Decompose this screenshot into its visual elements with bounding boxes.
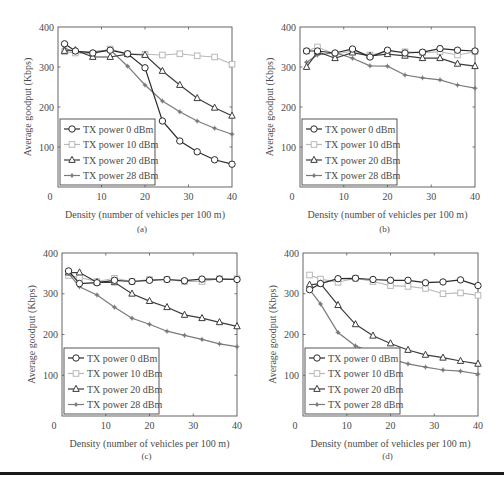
legend-label: TX power 0 dBm: [328, 353, 398, 364]
y-tick-label: 100: [39, 142, 54, 153]
panel-label: (b): [379, 224, 390, 234]
y-tick-label: 300: [43, 288, 58, 299]
triangle-marker: [370, 332, 376, 338]
legend-label: TX power 28 dBm: [87, 399, 162, 410]
circle-marker: [367, 54, 373, 60]
legend-label: TX power 20 dBm: [87, 384, 162, 395]
legend-label: TX power 20 dBm: [325, 155, 400, 166]
circle-marker: [387, 277, 393, 283]
legend: TX power 0 dBmTX power 10 dBmTX power 20…: [64, 348, 162, 414]
panel-label: (a): [137, 224, 147, 234]
square-marker: [160, 52, 166, 58]
y-tick-label: 100: [43, 370, 58, 381]
circle-marker: [76, 280, 82, 286]
x-tick-label: 20: [145, 420, 155, 431]
triangle-marker: [177, 81, 183, 87]
square-marker: [77, 275, 83, 281]
x-tick-label: 0: [52, 420, 57, 431]
chart-figure: 010203040100200300400Density (number of …: [0, 0, 504, 486]
square-marker: [194, 53, 200, 59]
square-marker: [69, 142, 75, 148]
y-tick-label: 400: [284, 248, 299, 259]
square-marker: [440, 291, 446, 297]
square-marker: [177, 51, 183, 57]
legend-label: TX power 28 dBm: [83, 170, 158, 181]
square-marker: [475, 293, 481, 299]
y-tick-label: 300: [281, 62, 296, 73]
square-marker: [458, 290, 464, 296]
y-axis-label: Average goodput (Kbps): [26, 285, 38, 384]
x-axis-label: Density (number of vehicles per 100 m): [70, 438, 230, 450]
circle-marker: [317, 280, 323, 286]
chart-panel-a: 010203040100200300400Density (number of …: [22, 22, 237, 235]
circle-marker: [124, 51, 130, 57]
y-tick-label: 200: [281, 102, 296, 113]
x-tick-label: 0: [290, 191, 295, 202]
y-tick-label: 200: [284, 329, 299, 340]
x-axis-label: Density (number of vehicles per 100 m): [311, 438, 471, 450]
square-marker: [73, 371, 79, 377]
x-tick-label: 20: [386, 420, 396, 431]
circle-marker: [234, 276, 240, 282]
truncated-caption-text: [0, 478, 504, 486]
square-marker: [311, 142, 317, 148]
circle-marker: [129, 278, 135, 284]
x-tick-label: 40: [473, 420, 483, 431]
legend-label: TX power 0 dBm: [87, 353, 157, 364]
circle-marker: [405, 277, 411, 283]
square-marker: [307, 272, 313, 278]
triangle-marker: [194, 95, 200, 101]
chart-panel-c: 010203040100200300400Density (number of …: [26, 248, 242, 462]
circle-marker: [199, 276, 205, 282]
legend-label: TX power 10 dBm: [83, 139, 158, 150]
triangle-marker: [76, 269, 82, 275]
circle-marker: [73, 355, 79, 361]
legend-label: TX power 0 dBm: [83, 124, 153, 135]
circle-marker: [303, 48, 309, 54]
square-marker: [423, 286, 429, 292]
circle-marker: [146, 277, 152, 283]
circle-marker: [370, 276, 376, 282]
triangle-marker: [129, 290, 135, 296]
circle-marker: [335, 275, 341, 281]
legend-label: TX power 10 dBm: [328, 368, 403, 379]
series-tx-power-20-dbm: [61, 47, 235, 119]
circle-marker: [437, 45, 443, 51]
x-tick-label: 30: [188, 420, 198, 431]
legend-label: TX power 28 dBm: [328, 399, 403, 410]
circle-marker: [94, 280, 100, 286]
circle-marker: [457, 277, 463, 283]
legend: TX power 0 dBmTX power 10 dBmTX power 20…: [60, 119, 158, 185]
panel-label: (d): [382, 451, 393, 461]
legend-label: TX power 10 dBm: [325, 139, 400, 150]
x-tick-label: 10: [339, 191, 349, 202]
circle-marker: [164, 276, 170, 282]
legend-label: TX power 10 dBm: [87, 368, 162, 379]
circle-marker: [422, 280, 428, 286]
legend-label: TX power 0 dBm: [325, 124, 395, 135]
x-tick-label: 20: [383, 191, 393, 202]
square-marker: [212, 54, 218, 60]
square-marker: [314, 371, 320, 377]
circle-marker: [61, 41, 67, 47]
x-axis-label: Density (number of vehicles per 100 m): [65, 209, 225, 221]
x-tick-label: 10: [101, 420, 111, 431]
x-tick-label: 30: [429, 420, 439, 431]
figure: 010203040100200300400Density (number of …: [0, 0, 504, 486]
circle-marker: [349, 46, 355, 52]
y-tick-label: 300: [284, 288, 299, 299]
legend-label: TX power 28 dBm: [325, 170, 400, 181]
circle-marker: [229, 161, 235, 167]
legend-label: TX power 20 dBm: [83, 155, 158, 166]
circle-marker: [306, 286, 312, 292]
circle-marker: [440, 279, 446, 285]
x-tick-label: 30: [426, 191, 436, 202]
x-tick-label: 30: [184, 191, 194, 202]
legend: TX power 0 dBmTX power 10 dBmTX power 20…: [305, 348, 403, 414]
x-tick-label: 0: [293, 420, 298, 431]
circle-marker: [216, 276, 222, 282]
circle-marker: [454, 47, 460, 53]
series-tx-power-10-dbm: [307, 272, 481, 298]
y-tick-label: 200: [39, 102, 54, 113]
y-tick-label: 400: [39, 22, 54, 33]
